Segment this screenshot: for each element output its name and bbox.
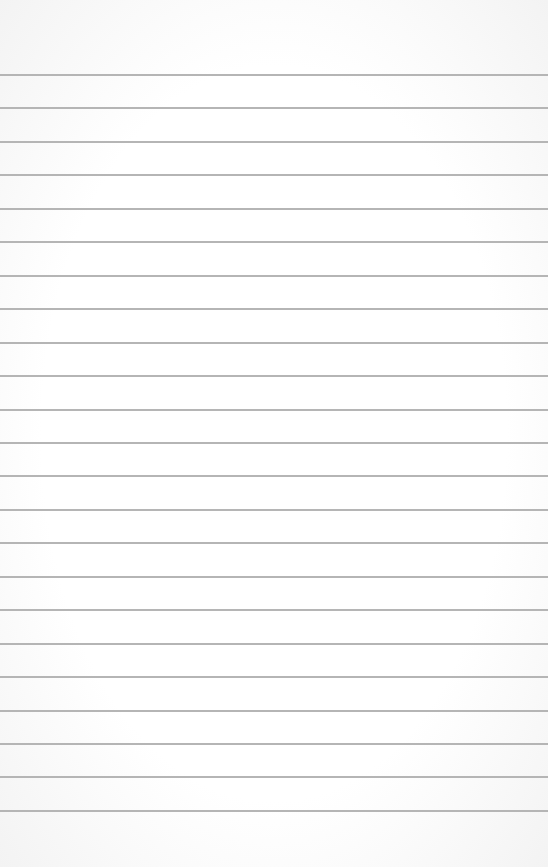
ruled-line	[0, 576, 548, 578]
ruled-line	[0, 241, 548, 243]
ruled-line	[0, 174, 548, 176]
ruled-line	[0, 107, 548, 109]
ruled-line	[0, 509, 548, 511]
ruled-line	[0, 442, 548, 444]
ruled-line	[0, 743, 548, 745]
ruled-line	[0, 208, 548, 210]
ruled-line	[0, 342, 548, 344]
lined-paper	[0, 0, 548, 867]
ruled-line	[0, 141, 548, 143]
ruled-line	[0, 542, 548, 544]
ruled-line	[0, 676, 548, 678]
ruled-line	[0, 810, 548, 812]
ruled-line	[0, 475, 548, 477]
ruled-line	[0, 74, 548, 76]
ruled-line	[0, 710, 548, 712]
ruled-line	[0, 308, 548, 310]
ruled-line	[0, 643, 548, 645]
ruled-line	[0, 409, 548, 411]
ruled-line	[0, 275, 548, 277]
ruled-line	[0, 375, 548, 377]
ruled-line	[0, 609, 548, 611]
ruled-line	[0, 776, 548, 778]
